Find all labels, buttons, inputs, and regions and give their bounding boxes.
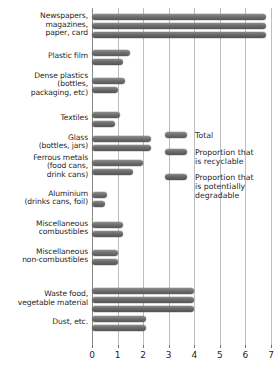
bar <box>92 121 115 127</box>
category-label-line: (drinks cans, foil) <box>0 198 88 207</box>
x-tick-mark <box>194 345 195 348</box>
category-label-line: combustibles <box>0 228 88 237</box>
x-tick-label: 6 <box>235 350 255 360</box>
waste-composition-bar-chart: Newspapers,magazines,paper, cardPlastic … <box>0 0 279 377</box>
category-label-line: non-combustibles <box>0 256 88 265</box>
x-tick-label: 2 <box>133 350 153 360</box>
category-label-line: drink cans) <box>0 171 88 180</box>
bar <box>92 112 120 118</box>
category-label-line: (bottles, jars) <box>0 142 88 151</box>
category-label: Textiles <box>0 114 88 123</box>
bar <box>92 297 194 303</box>
category-label-line: Dust, etc. <box>0 318 88 327</box>
bar <box>92 50 130 56</box>
category-label-line: vegetable material <box>0 299 88 308</box>
bar <box>92 201 105 207</box>
category-label: Glass(bottles, jars) <box>0 134 88 151</box>
legend-swatch <box>165 149 187 155</box>
category-label: Newspapers,magazines,paper, card <box>0 12 88 38</box>
bar <box>92 32 266 38</box>
category-label: Miscellaneousnon-combustibles <box>0 248 88 265</box>
category-label-line: Plastic film <box>0 52 88 61</box>
x-tick-mark <box>271 345 272 348</box>
category-label: Dust, etc. <box>0 318 88 327</box>
top-edge-artifact <box>0 0 279 4</box>
legend-item[interactable]: Total <box>165 131 277 141</box>
category-label-line: Textiles <box>0 114 88 123</box>
x-tick-mark <box>143 345 144 348</box>
x-tick-mark <box>92 345 93 348</box>
legend-label: Total <box>195 131 277 140</box>
category-label: Aluminium(drinks cans, foil) <box>0 190 88 207</box>
category-label: Dense plastics(bottles,packaging, etc) <box>0 72 88 98</box>
bar <box>92 250 118 256</box>
x-tick-label: 0 <box>82 350 102 360</box>
x-tick-label: 5 <box>210 350 230 360</box>
legend-item[interactable]: Proportion that is potentially degradabl… <box>165 173 277 200</box>
category-label-line: packaging, etc) <box>0 89 88 98</box>
bar <box>92 23 266 29</box>
legend-label: Proportion that is potentially degradabl… <box>195 173 277 200</box>
bar <box>92 288 194 294</box>
legend-swatch <box>165 132 187 138</box>
x-tick-label: 1 <box>108 350 128 360</box>
x-tick-mark <box>169 345 170 348</box>
gridline-2 <box>143 8 144 345</box>
category-label: Miscellaneouscombustibles <box>0 220 88 237</box>
x-axis: 01234567 <box>92 345 271 373</box>
bar <box>92 316 146 322</box>
x-tick-mark <box>245 345 246 348</box>
bar <box>92 59 123 65</box>
category-label: Waste food,vegetable material <box>0 290 88 307</box>
x-tick-mark <box>118 345 119 348</box>
x-tick-label: 7 <box>261 350 279 360</box>
category-label: Plastic film <box>0 52 88 61</box>
legend-swatch <box>165 174 187 180</box>
bar <box>92 231 123 237</box>
category-label-line: paper, card <box>0 29 88 38</box>
category-label: Ferrous metals(food cans,drink cans) <box>0 154 88 180</box>
bar <box>92 145 151 151</box>
bar <box>92 14 266 20</box>
bar <box>92 192 107 198</box>
bar <box>92 306 194 312</box>
bar <box>92 136 151 142</box>
bar <box>92 325 146 331</box>
chart-legend: TotalProportion that is recyclablePropor… <box>165 131 277 207</box>
legend-item[interactable]: Proportion that is recyclable <box>165 148 277 166</box>
x-tick-label: 4 <box>184 350 204 360</box>
bar <box>92 222 123 228</box>
bar <box>92 169 133 175</box>
legend-label: Proportion that is recyclable <box>195 148 277 166</box>
bar <box>92 78 125 84</box>
x-tick-mark <box>220 345 221 348</box>
x-tick-label: 3 <box>159 350 179 360</box>
bar <box>92 87 118 93</box>
bar <box>92 259 118 265</box>
bar <box>92 160 143 166</box>
